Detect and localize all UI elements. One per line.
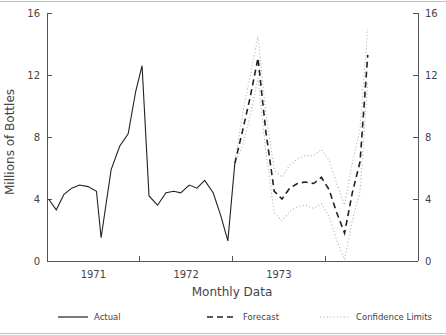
lower-confidence-limit-line: [235, 78, 368, 259]
x-axis-title: Monthly Data: [192, 285, 273, 299]
y-tick-label-right: 12: [425, 70, 438, 81]
legend-label-confidence: Confidence Limits: [356, 312, 433, 322]
forecast-line-chart: 0481216 0481216 197119721973 Millions of…: [0, 0, 446, 335]
y-tick-label-left: 12: [27, 70, 40, 81]
chart-legend: Actual Forecast Confidence Limits: [58, 312, 433, 322]
y-tick-label-left: 0: [34, 256, 40, 267]
forecast-series-line: [235, 55, 368, 233]
y-tick-label-right: 16: [425, 8, 438, 19]
y-tick-label-right: 4: [425, 194, 431, 205]
x-tick-label: 1971: [81, 269, 106, 280]
actual-series-line: [49, 66, 235, 241]
legend-label-forecast: Forecast: [243, 312, 280, 322]
x-axis-ticks: [140, 256, 326, 261]
chart-container: 0481216 0481216 197119721973 Millions of…: [0, 0, 446, 335]
x-axis-tick-labels: 197119721973: [81, 269, 292, 280]
y-tick-label-left: 8: [34, 132, 40, 143]
y-tick-label-left: 16: [27, 8, 40, 19]
legend-label-actual: Actual: [94, 312, 121, 322]
y-tick-label-right: 0: [425, 256, 431, 267]
y-axis-right-ticks: 0481216: [413, 8, 438, 267]
x-tick-label: 1973: [266, 269, 291, 280]
y-axis-left-ticks: 0481216: [27, 8, 52, 267]
x-tick-label: 1972: [173, 269, 198, 280]
y-tick-label-right: 8: [425, 132, 431, 143]
y-tick-label-left: 4: [34, 194, 40, 205]
upper-confidence-limit-line: [235, 29, 368, 206]
y-axis-title: Millions of Bottles: [3, 89, 17, 195]
